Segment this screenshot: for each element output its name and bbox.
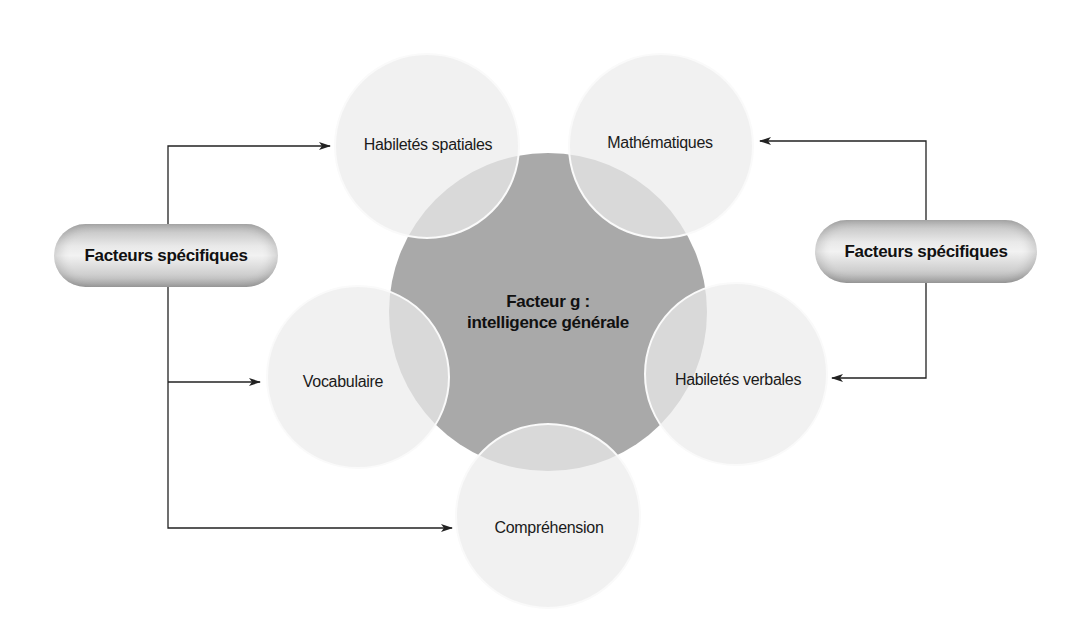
label-habiletes-spatiales: Habiletés spatiales xyxy=(364,136,493,154)
label-mathematiques: Mathématiques xyxy=(607,134,713,152)
label-comprehension: Compréhension xyxy=(494,519,603,537)
central-factor-title: Facteur g : xyxy=(467,291,629,312)
left-specific-factors-label: Facteurs spécifiques xyxy=(84,246,247,266)
left-specific-factors-pill: Facteurs spécifiques xyxy=(54,224,278,287)
right-specific-factors-pill: Facteurs spécifiques xyxy=(815,220,1037,283)
central-factor-subtitle: intelligence générale xyxy=(467,312,629,333)
label-habiletes-verbales: Habiletés verbales xyxy=(675,371,801,389)
circle-comprehension xyxy=(456,424,640,608)
label-vocabulaire: Vocabulaire xyxy=(303,373,383,391)
right-specific-factors-label: Facteurs spécifiques xyxy=(844,242,1007,262)
central-factor-label: Facteur g : intelligence générale xyxy=(467,291,629,333)
